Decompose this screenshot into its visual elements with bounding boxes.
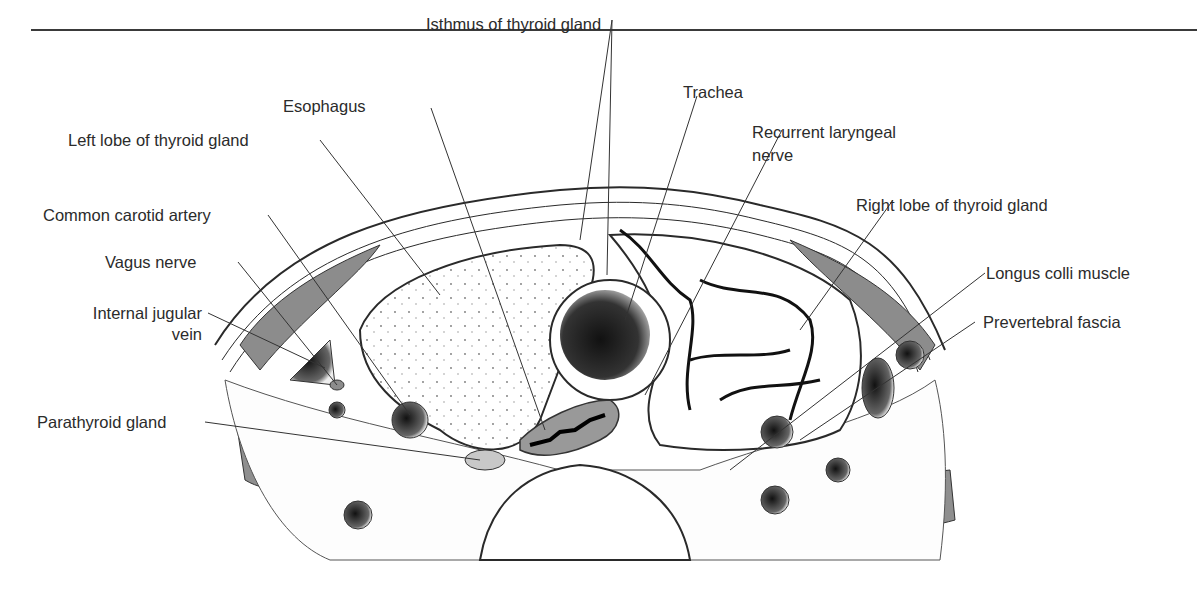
label-recurrent-laryngeal-nerve-line2: nerve <box>752 146 793 165</box>
label-trachea: Trachea <box>683 83 743 102</box>
label-common-carotid-artery: Common carotid artery <box>43 206 211 225</box>
common-carotid-artery-shape <box>392 402 428 438</box>
label-esophagus: Esophagus <box>283 97 366 116</box>
label-left-lobe-of-thyroid-gland: Left lobe of thyroid gland <box>68 131 249 150</box>
label-recurrent-laryngeal-nerve-line1: Recurrent laryngeal <box>752 123 896 142</box>
label-internal-jugular-vein-line1: Internal jugular <box>58 304 202 323</box>
label-parathyroid-gland: Parathyroid gland <box>37 413 166 432</box>
label-internal-jugular-vein-line2: vein <box>58 325 202 344</box>
trachea-lumen <box>560 290 650 380</box>
label-longus-colli-muscle: Longus colli muscle <box>986 264 1130 283</box>
parathyroid-gland-shape <box>465 450 505 470</box>
neck-cross-section-illustration <box>0 0 1203 589</box>
label-right-lobe-of-thyroid-gland: Right lobe of thyroid gland <box>856 196 1048 215</box>
label-prevertebral-fascia: Prevertebral fascia <box>983 313 1121 332</box>
label-vagus-nerve: Vagus nerve <box>105 253 196 272</box>
label-isthmus-of-thyroid-gland: Isthmus of thyroid gland <box>426 15 601 34</box>
